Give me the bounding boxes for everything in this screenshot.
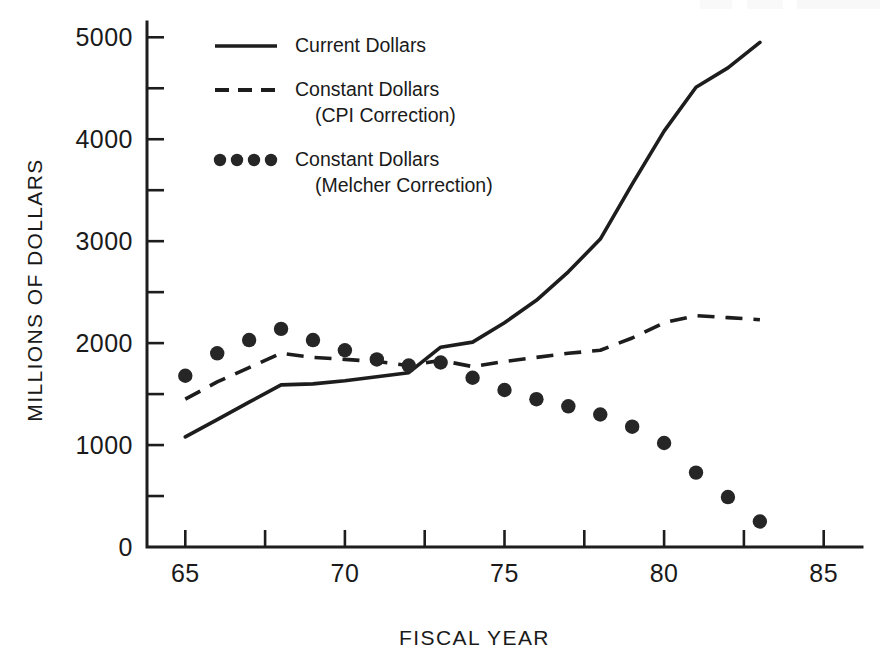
legend-label-primary: Constant Dollars (295, 78, 439, 100)
legend-label-primary: Constant Dollars (295, 148, 439, 170)
data-point (178, 369, 192, 383)
legend-swatch-dot (248, 154, 260, 166)
legend-swatch-dot (265, 154, 277, 166)
data-point (753, 514, 767, 528)
x-tick-label: 70 (330, 559, 359, 587)
axes-layer (147, 22, 862, 547)
y-tick-label: 5000 (75, 23, 133, 51)
legend-layer: Current DollarsConstant Dollars(CPI Corr… (214, 34, 493, 196)
data-point (274, 322, 288, 336)
data-point (402, 358, 416, 372)
data-point (370, 352, 384, 366)
data-point (338, 343, 352, 357)
y-tick-label: 3000 (75, 227, 133, 255)
data-point (529, 392, 543, 406)
legend-swatch-dot (214, 154, 226, 166)
data-point (210, 346, 224, 360)
y-axis-title: MILLIONS OF DOLLARS (23, 158, 46, 422)
series-2-dots (178, 322, 767, 529)
data-point (657, 436, 671, 450)
legend-label-primary: Current Dollars (295, 34, 426, 56)
x-tick-label: 85 (809, 559, 838, 587)
axis-spines (147, 22, 862, 547)
legend-label-secondary: (Melcher Correction) (315, 174, 493, 196)
legend-entry-0[interactable]: Current Dollars (215, 34, 426, 56)
data-point (625, 420, 639, 434)
data-point (306, 333, 320, 347)
data-point (593, 407, 607, 421)
y-tick-label: 0 (119, 533, 133, 561)
data-point (561, 399, 575, 413)
line-chart: Current DollarsConstant Dollars(CPI Corr… (0, 0, 887, 672)
data-point (721, 490, 735, 504)
y-tick-label: 1000 (75, 431, 133, 459)
series-1-line (185, 316, 760, 400)
legend-entry-1[interactable]: Constant Dollars(CPI Correction) (215, 78, 456, 126)
x-axis-title: FISCAL YEAR (399, 626, 550, 649)
data-point (465, 371, 479, 385)
series-layer (178, 42, 767, 528)
legend-entry-2[interactable]: Constant Dollars(Melcher Correction) (214, 148, 493, 196)
data-point (497, 383, 511, 397)
x-tick-label: 75 (490, 559, 519, 587)
data-point (433, 355, 447, 369)
x-tick-label: 65 (171, 559, 200, 587)
y-tick-label: 4000 (75, 125, 133, 153)
legend-swatch-dot (231, 154, 243, 166)
x-tick-label: 80 (650, 559, 679, 587)
y-tick-label: 2000 (75, 329, 133, 357)
figure-container: Current DollarsConstant Dollars(CPI Corr… (0, 0, 887, 672)
legend-label-secondary: (CPI Correction) (315, 104, 456, 126)
data-point (242, 333, 256, 347)
data-point (689, 465, 703, 479)
